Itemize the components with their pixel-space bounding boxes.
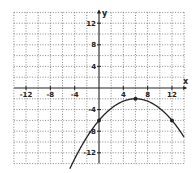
y-tick-label: 12 — [86, 20, 96, 28]
y-tick-label: -4 — [88, 106, 96, 114]
y-axis-label: y — [102, 9, 108, 18]
coordinate-plane-chart: -12-8-448121284-4-8-12 x y — [0, 0, 193, 173]
data-point — [133, 97, 137, 101]
data-point — [170, 118, 174, 122]
x-tick-label: 4 — [121, 91, 126, 99]
x-tick-label: -8 — [46, 91, 54, 99]
data-point — [97, 118, 101, 122]
y-tick-label: 8 — [91, 41, 96, 49]
y-tick-label: 4 — [91, 63, 96, 71]
x-tick-label: 8 — [145, 91, 150, 99]
axes — [14, 9, 187, 163]
y-axis-arrow-icon — [97, 9, 101, 13]
x-tick-label: -12 — [20, 91, 33, 99]
x-axis-arrow-icon — [183, 86, 187, 90]
y-tick-label: -12 — [83, 149, 96, 157]
x-tick-label: -4 — [71, 91, 79, 99]
x-tick-label: 12 — [167, 91, 177, 99]
x-axis-label: x — [183, 77, 189, 86]
